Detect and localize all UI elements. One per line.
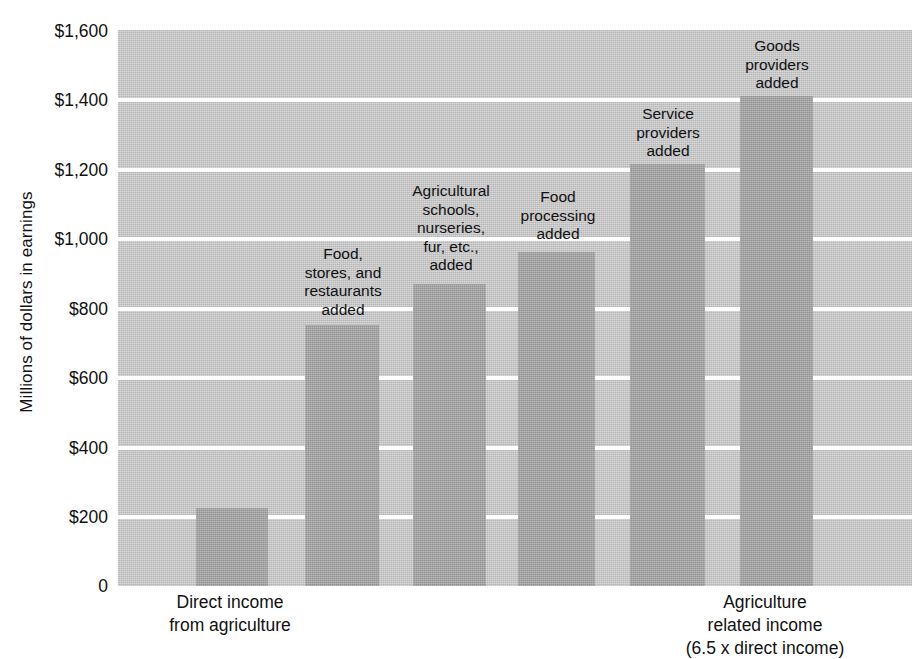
bar-food-processing [518,252,595,586]
x-axis-label-agriculture-related-income: Agriculture related income (6.5 x direct… [640,591,890,659]
y-tick-label: $1,200 [0,161,108,179]
y-tick-label: $1,600 [0,22,108,40]
bar-annotation-goods-providers: Goods providers added [728,37,826,93]
bar-annotation-food-processing: Food processing added [510,188,606,244]
bar-annotation-agricultural-schools: Agricultural schools, nurseries, fur, et… [399,182,503,275]
y-tick-label: $600 [0,369,108,387]
y-tick-label: $1,400 [0,91,108,109]
y-axis-tick-labels: $1,600 $1,400 $1,200 $1,000 $800 $600 $4… [0,0,108,659]
bar-service-providers [630,164,705,586]
bar-agricultural-schools [413,284,486,586]
bar-goods-providers [740,96,813,586]
bar-chart: Millions of dollars in earnings $1,600 $… [0,0,912,659]
plot-area: Food, stores, and restaurants added Agri… [118,30,912,586]
bar-annotation-food-stores-restaurants: Food, stores, and restaurants added [291,245,395,319]
y-tick-label: $800 [0,300,108,318]
y-tick-label: $200 [0,508,108,526]
x-axis-label-direct-income: Direct income from agriculture [130,591,330,637]
y-tick-label: $1,000 [0,230,108,248]
bar-food-stores-restaurants [305,325,379,586]
y-tick-label: 0 [0,577,108,595]
bar-annotation-service-providers: Service providers added [618,105,718,161]
y-tick-label: $400 [0,439,108,457]
bar-direct-income [196,508,268,586]
